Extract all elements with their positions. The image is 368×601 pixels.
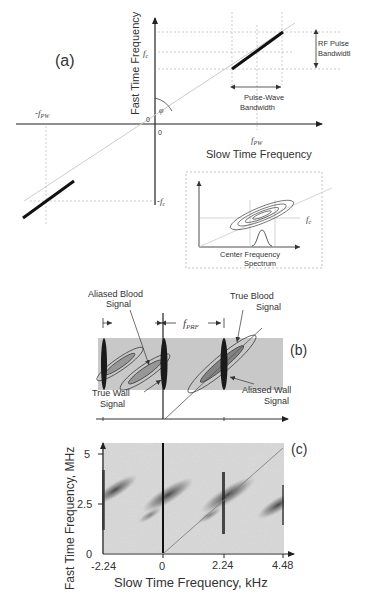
- fprf-label: fPRF: [183, 317, 200, 331]
- rf-pulse-label-2: Bandwidtl: [318, 49, 351, 58]
- figure-canvas: RF Pulse Bandwidtl Pulse-Wave Bandwidth …: [0, 0, 368, 601]
- c-ytick-0: 0: [86, 548, 92, 560]
- signal-line-upper: [232, 32, 283, 69]
- true-wall-label-1: True Wall: [92, 388, 130, 398]
- pw-bandwidth-label-2: Bandwidth: [240, 103, 275, 112]
- guides-lower: [30, 126, 152, 226]
- panel-b: fPRF Aliased Blood Signal True Blood Sig…: [88, 289, 307, 421]
- panel-a-label: (a): [55, 52, 75, 69]
- fpw-label: fPW: [251, 135, 263, 146]
- panel-c: 5 2.5 0 -2.24 0 2.24 4.48 Slow Time Freq…: [63, 440, 307, 590]
- neg-fc-label: -fc: [157, 196, 166, 207]
- fc-label: fc: [143, 48, 149, 59]
- aliased-blood-label-1: Aliased Blood: [88, 289, 143, 299]
- origin-x-label: 0: [158, 129, 162, 136]
- aliased-wall-label-2: Signal: [264, 396, 289, 406]
- x-axis-label: Slow Time Frequency: [206, 148, 312, 160]
- origin-y-label: 0: [146, 116, 150, 123]
- rf-pulse-label-1: RF Pulse: [318, 39, 349, 48]
- true-blood-label-1: True Blood: [230, 291, 274, 301]
- signal-line-lower: [23, 181, 74, 218]
- guides-upper: [158, 12, 340, 130]
- c-y-axis-label: Fast Time Frequency, MHz: [63, 447, 77, 590]
- inset-caption-1: Center Frequency: [220, 250, 280, 259]
- true-wall-label-2: Signal: [100, 399, 125, 409]
- spectrogram: [89, 440, 302, 555]
- panel-b-label: (b): [290, 342, 307, 358]
- c-ytick-5: 5: [84, 448, 90, 460]
- c-xtick-4.48: 4.48: [272, 559, 293, 571]
- y-axis-label: Fast Time Frequency: [129, 11, 141, 115]
- angle-label: φ: [159, 106, 164, 115]
- c-xtick-neg2.24: -2.24: [91, 560, 116, 572]
- c-xtick-0: 0: [159, 560, 165, 572]
- panel-c-label: (c): [291, 441, 307, 457]
- svg-text:fc: fc: [306, 214, 312, 225]
- c-xtick-2.24: 2.24: [212, 559, 233, 571]
- panel-a: RF Pulse Bandwidtl Pulse-Wave Bandwidth …: [16, 11, 351, 268]
- center-frequency-inset: fc Center Frequency Spectrum: [186, 172, 332, 268]
- c-x-axis-label: Slow Time Frequency, kHz: [114, 575, 268, 590]
- aliased-wall-label-1: Aliased Wall: [242, 385, 291, 395]
- true-blood-label-2: Signal: [256, 302, 281, 312]
- neg-fpw-label: -fPW: [35, 108, 50, 119]
- aliased-blood-label-2: Signal: [106, 299, 131, 309]
- inset-caption-2: Spectrum: [244, 259, 276, 268]
- pw-bandwidth-label-1: Pulse-Wave: [244, 93, 284, 102]
- c-ytick-2.5: 2.5: [77, 498, 92, 510]
